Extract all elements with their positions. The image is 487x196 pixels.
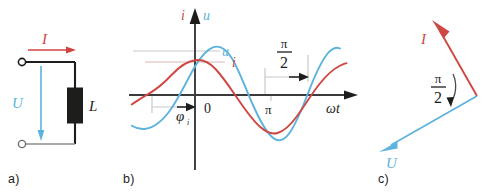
panel-c-phasor-diagram: π 2 I U [370, 0, 487, 196]
voltage-arrow-group [38, 66, 45, 141]
origin-label-0: 0 [204, 101, 211, 116]
y-axis-label-i: i [181, 8, 185, 23]
current-arrow-group [28, 46, 76, 53]
terminal-top [18, 58, 25, 65]
phasor-voltage-group [379, 96, 477, 152]
angle-arc-group [447, 74, 456, 107]
panel-a-circuit-schematic: I U L [0, 0, 125, 196]
phi-label-group: φ i [176, 108, 189, 127]
panel-b-waveform-chart: i u u i 0 π φ i π 2 ωt [125, 0, 370, 196]
phasor-voltage-arrow-head [379, 142, 398, 153]
curve-label-i: i [232, 55, 236, 70]
inductor-label-L: L [88, 98, 97, 114]
panel-label-b: b) [123, 172, 135, 186]
phasor-label-U: U [386, 155, 398, 171]
phi-label: φ [176, 108, 184, 124]
voltage-arrow-head [38, 130, 45, 141]
phi-label-subscript: i [187, 118, 189, 127]
panel-label-a: a) [8, 172, 20, 186]
angle-arc-arrow-head [447, 97, 455, 107]
y-axis-arrow-head [190, 8, 201, 24]
x-axis-label-omega-t: ωt [326, 101, 341, 116]
phasor-current-arrow-head [432, 20, 450, 39]
phasor-angle-label-group: π 2 [431, 71, 446, 106]
x-tick-label-pi: π [265, 102, 272, 117]
pi-over-2-arrow-group [289, 73, 309, 81]
current-label-I: I [41, 31, 48, 47]
phasor-svg: π 2 I U [370, 0, 487, 196]
terminal-bottom [18, 140, 25, 147]
panel-label-c: c) [378, 172, 389, 186]
phasor-angle-denominator: 2 [434, 89, 442, 106]
pi2-numerator: π [281, 36, 288, 51]
y-axis-label-u: u [203, 8, 210, 23]
curve-label-u: u [222, 44, 229, 59]
phasor-angle-numerator: π [435, 71, 442, 86]
phasor-label-I: I [420, 31, 427, 47]
figure-container: I U L [0, 0, 487, 196]
current-arrow-head [66, 46, 76, 53]
inductor-symbol [68, 88, 83, 123]
circuit-schematic-svg: I U L [0, 0, 125, 196]
waveform-svg: i u u i 0 π φ i π 2 ωt [125, 0, 370, 196]
x-axis-arrow-head [344, 91, 358, 100]
phasor-current-shaft [440, 31, 477, 96]
pi2-denominator: 2 [280, 54, 288, 71]
voltage-label-U: U [12, 95, 24, 111]
pi-over-2-label-group: π 2 [277, 36, 292, 71]
chart-axes [129, 8, 358, 170]
